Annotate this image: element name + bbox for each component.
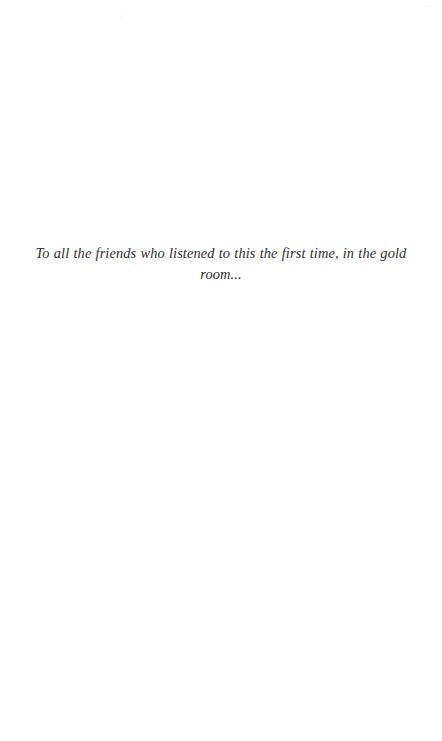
- scan-artifact-speck: [121, 15, 122, 20]
- dedication-page: To all the friends who listened to this …: [0, 0, 442, 741]
- dedication-block: To all the friends who listened to this …: [0, 243, 442, 285]
- scan-artifact-speck: [427, 5, 431, 7]
- dedication-text: To all the friends who listened to this …: [34, 243, 408, 285]
